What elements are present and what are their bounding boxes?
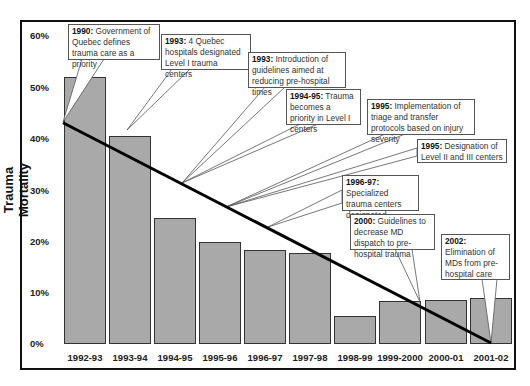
annotation-year: 2002:	[445, 236, 466, 246]
annotation-year: 1993:	[252, 54, 273, 64]
annotation-callout: 1994-95: Trauma becomes a priority in Le…	[286, 89, 361, 125]
annotation-callout: 2000: Guidelines to decrease MD dispatch…	[350, 214, 435, 250]
annotation-year: 1994-95:	[290, 91, 323, 101]
bar	[425, 300, 467, 344]
annotation-text: Elimination of MDs from pre-hospital car…	[445, 247, 498, 279]
annotation-year: 1993:	[165, 36, 186, 46]
annotation-callout: 2002: Elimination of MDs from pre-hospit…	[441, 234, 510, 280]
y-tick: 20%	[30, 236, 62, 247]
annotation-callout: 1990: Government of Quebec defines traum…	[68, 24, 160, 60]
annotation-callout: 1995: Designation of Level II and III ce…	[417, 139, 507, 163]
x-tick: 2001-02	[461, 352, 521, 363]
annotation-callout: 1993: 4 Quebec hospitals designated Leve…	[161, 34, 251, 70]
y-tick: 10%	[30, 287, 62, 298]
annotation-callout: 1996-97: Specialized trauma centers desi…	[342, 175, 419, 211]
bar	[64, 77, 106, 344]
bar	[109, 136, 151, 344]
bar	[244, 250, 286, 344]
annotation-year: 1996-97:	[346, 177, 379, 187]
bar	[379, 301, 421, 344]
annotation-callout: 1995: Implementation of triage and trans…	[367, 99, 475, 135]
annotation-year: 1995:	[371, 101, 392, 111]
bar	[289, 253, 331, 344]
annotation-year: 2000:	[354, 216, 375, 226]
y-tick: 40%	[30, 133, 62, 144]
trauma-mortality-chart: Trauma Mortality 0% 10% 20% 30% 40% 50% …	[0, 0, 530, 386]
y-axis-label: Trauma Mortality	[1, 140, 31, 240]
annotation-year: 1995:	[421, 141, 442, 151]
annotation-callout: 1993: Introduction of guidelines aimed a…	[248, 52, 346, 88]
bar	[470, 298, 512, 344]
annotation-year: 1990:	[72, 26, 93, 36]
y-tick: 0%	[30, 338, 62, 349]
bar	[334, 316, 376, 344]
bar	[154, 218, 196, 344]
bar	[199, 242, 241, 344]
y-tick: 30%	[30, 185, 62, 196]
y-tick: 60%	[30, 30, 62, 41]
y-tick: 50%	[30, 82, 62, 93]
